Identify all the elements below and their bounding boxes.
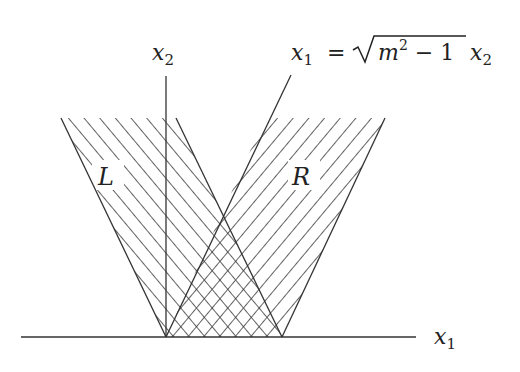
svg-text:x2: x2 [470, 40, 492, 69]
svg-text:=: = [327, 40, 345, 65]
svg-text:x1: x1 [291, 40, 313, 69]
region-label-R: R [291, 163, 310, 191]
svg-text:m2 − 1: m2 − 1 [378, 37, 454, 65]
region-label-L: L [97, 163, 114, 191]
x1-axis-label: x1 [434, 324, 456, 353]
boundary-equation-label: x1 = m2 − 1 x2 [291, 36, 492, 69]
x2-axis-label: x2 [152, 40, 174, 69]
diagram-canvas: x2 x1 x1 = m2 − 1 x2 L R [0, 0, 520, 372]
